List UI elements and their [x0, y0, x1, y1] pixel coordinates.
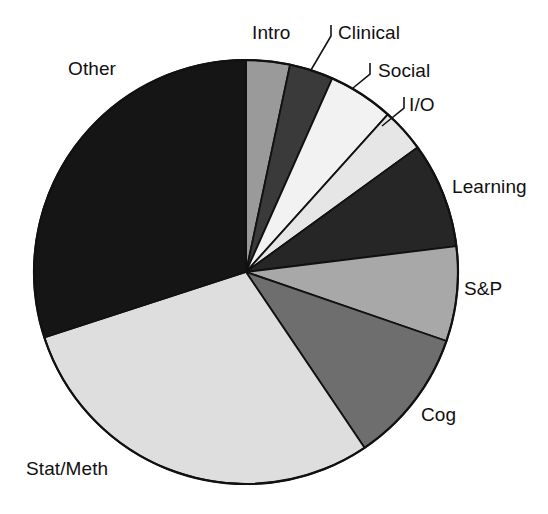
- pie-label-stat-meth: Stat/Meth: [26, 458, 108, 480]
- pie-label-i-o: I/O: [409, 94, 435, 116]
- pie-label-intro: Intro: [252, 22, 291, 44]
- pie-label-social: Social: [378, 60, 430, 82]
- pie-label-learning: Learning: [452, 176, 527, 198]
- leader-line-clinical: [311, 25, 331, 70]
- pie-slices-group: [34, 60, 458, 484]
- pie-label-cog: Cog: [421, 404, 456, 426]
- pie-chart-figure: IntroClinicalSocialI/OLearningS&PCogStat…: [0, 0, 548, 514]
- leader-line-social: [353, 63, 370, 88]
- pie-label-other: Other: [68, 58, 116, 80]
- pie-label-s-p: S&P: [464, 278, 502, 300]
- pie-label-clinical: Clinical: [338, 22, 400, 44]
